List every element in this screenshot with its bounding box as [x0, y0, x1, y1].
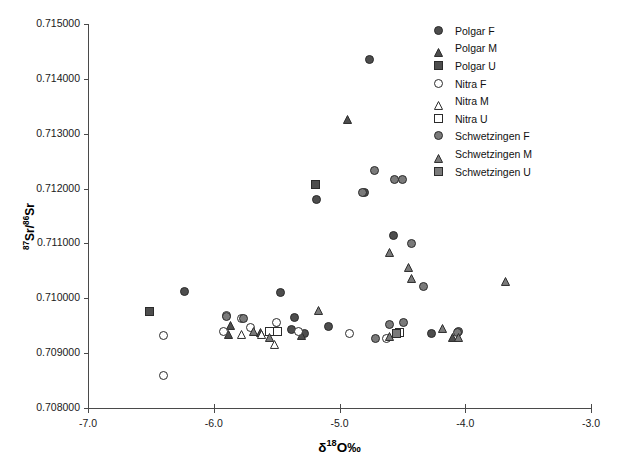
legend-label: Polgar U	[455, 60, 496, 72]
data-point	[438, 319, 447, 328]
legend-label: Schwetzingen M	[455, 148, 532, 160]
y-tick-label: 0.713000	[5, 127, 80, 139]
marker-triangle	[434, 96, 443, 105]
data-point	[399, 318, 408, 327]
x-tick-label: -7.0	[58, 417, 118, 429]
marker-circle	[434, 131, 443, 140]
data-point	[407, 269, 416, 278]
y-tick-label: 0.708000	[5, 401, 80, 413]
y-tick-mark	[84, 134, 89, 135]
legend-marker-triangle-icon	[432, 146, 448, 162]
x-tick-label: -3.0	[561, 417, 621, 429]
data-point	[314, 301, 323, 310]
data-point	[392, 329, 401, 338]
legend-marker-triangle-icon	[432, 40, 448, 56]
y-tick-mark	[84, 243, 89, 244]
legend-label: Schwetzingen U	[455, 166, 531, 178]
y-tick-label: 0.715000	[5, 17, 80, 29]
data-point	[454, 328, 463, 337]
marker-square	[434, 114, 443, 123]
data-point	[219, 327, 228, 336]
marker-circle	[434, 26, 443, 35]
data-point	[389, 231, 398, 240]
data-point	[345, 329, 354, 338]
data-point	[343, 110, 352, 119]
legend-label: Nitra U	[455, 113, 488, 125]
x-tick-mark	[88, 404, 89, 413]
data-point	[273, 327, 282, 336]
marker-triangle	[434, 149, 443, 158]
y-tick-label: 0.710000	[5, 291, 80, 303]
x-tick-mark	[214, 404, 215, 413]
data-point	[371, 334, 380, 343]
data-point	[370, 166, 379, 175]
legend-item[interactable]: Polgar F	[432, 22, 618, 40]
data-point	[358, 188, 367, 197]
x-tick-label: -6.0	[184, 417, 244, 429]
data-point	[407, 239, 416, 248]
legend-item[interactable]: Schwetzingen M	[432, 145, 618, 163]
legend: Polgar FPolgar MPolgar UNitra FNitra MNi…	[432, 22, 618, 180]
x-axis-label: δ18O‰	[280, 438, 400, 455]
scatter-plot-figure: 0.7080000.7090000.7100000.7110000.712000…	[0, 0, 622, 461]
y-axis-line	[88, 24, 89, 409]
data-point	[294, 327, 303, 336]
marker-square	[434, 167, 443, 176]
data-point	[312, 195, 321, 204]
data-point	[398, 175, 407, 184]
legend-item[interactable]: Schwetzingen U	[432, 163, 618, 181]
x-tick-mark	[340, 404, 341, 413]
data-point	[159, 371, 168, 380]
data-point	[145, 307, 154, 316]
y-tick-label: 0.711000	[5, 236, 80, 248]
legend-item[interactable]: Nitra M	[432, 92, 618, 110]
data-point	[311, 180, 320, 189]
data-point	[385, 243, 394, 252]
x-tick-mark	[591, 404, 592, 413]
data-point	[265, 328, 274, 337]
legend-marker-square-icon	[432, 58, 448, 74]
data-point	[427, 329, 436, 338]
data-point	[404, 258, 413, 267]
legend-label: Nitra F	[455, 78, 487, 90]
x-tick-mark	[465, 404, 466, 413]
data-point	[419, 282, 428, 291]
data-point	[237, 325, 246, 334]
data-point	[501, 272, 510, 281]
x-tick-label: -4.0	[435, 417, 495, 429]
data-point	[276, 288, 285, 297]
legend-marker-circle-icon	[432, 76, 448, 92]
data-point	[159, 331, 168, 340]
y-tick-mark	[84, 189, 89, 190]
legend-label: Polgar F	[455, 25, 495, 37]
legend-item[interactable]: Nitra U	[432, 110, 618, 128]
y-tick-label: 0.714000	[5, 72, 80, 84]
y-tick-label: 0.709000	[5, 346, 80, 358]
legend-item[interactable]: Polgar M	[432, 40, 618, 58]
legend-marker-triangle-icon	[432, 93, 448, 109]
data-point	[365, 55, 374, 64]
legend-marker-circle-icon	[432, 128, 448, 144]
y-tick-mark	[84, 353, 89, 354]
data-point	[290, 313, 299, 322]
legend-marker-circle-icon	[432, 23, 448, 39]
legend-marker-square-icon	[432, 164, 448, 180]
legend-label: Schwetzingen F	[455, 130, 530, 142]
legend-label: Polgar M	[455, 42, 497, 54]
data-point	[324, 322, 333, 331]
legend-marker-square-icon	[432, 111, 448, 127]
y-tick-label: 0.712000	[5, 182, 80, 194]
x-tick-label: -5.0	[310, 417, 370, 429]
y-tick-mark	[84, 298, 89, 299]
marker-triangle	[434, 43, 443, 52]
legend-item[interactable]: Schwetzingen F	[432, 128, 618, 146]
legend-item[interactable]: Nitra F	[432, 75, 618, 93]
data-point	[239, 314, 248, 323]
y-tick-mark	[84, 24, 89, 25]
marker-square	[434, 61, 443, 70]
legend-item[interactable]: Polgar U	[432, 57, 618, 75]
data-point	[249, 322, 258, 331]
y-tick-mark	[84, 79, 89, 80]
marker-circle	[434, 79, 443, 88]
legend-label: Nitra M	[455, 95, 489, 107]
